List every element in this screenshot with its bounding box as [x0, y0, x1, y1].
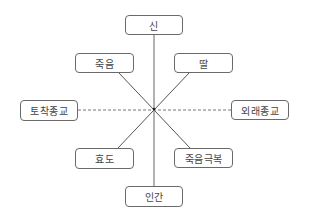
center-point: [153, 108, 156, 111]
node-label: 토착종교: [30, 103, 68, 118]
node-label: 딸: [199, 56, 209, 71]
node-label: 죽음: [95, 56, 114, 71]
node-label: 인간: [145, 189, 164, 204]
node-lower-left-filial-piety: 효도: [75, 148, 134, 169]
node-upper-left-death: 죽음: [75, 53, 134, 73]
node-lower-right-overcoming-death: 죽음극복: [174, 148, 233, 168]
node-label: 신: [149, 18, 159, 33]
node-label: 죽음극복: [185, 151, 223, 166]
node-left-indigenous-religion: 토착종교: [20, 100, 78, 121]
node-label: 효도: [95, 151, 114, 166]
node-upper-right-daughter: 딸: [174, 53, 233, 73]
node-top-god: 신: [125, 15, 183, 35]
node-label: 외래종교: [241, 103, 279, 118]
node-right-foreign-religion: 외래종교: [231, 100, 289, 120]
node-bottom-human: 인간: [125, 186, 183, 207]
